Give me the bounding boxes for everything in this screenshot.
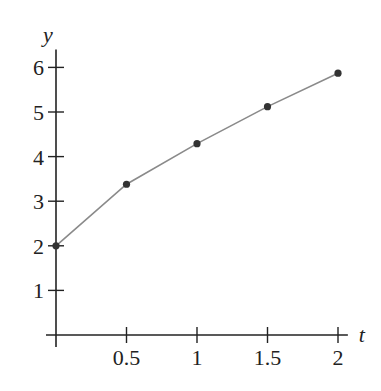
data-series [52, 70, 341, 250]
data-point-marker [193, 140, 200, 147]
data-point-marker [334, 70, 341, 77]
line-chart: 1234560.511.52yt [0, 0, 381, 391]
x-tick-label: 1 [192, 345, 203, 370]
data-point-marker [264, 103, 271, 110]
x-axis-title: t [359, 322, 366, 347]
data-point-marker [52, 242, 59, 249]
data-point-marker [123, 181, 130, 188]
y-tick-label: 4 [33, 145, 44, 170]
x-tick-label: 0.5 [113, 345, 141, 370]
x-tick-label: 1.5 [254, 345, 282, 370]
y-tick-label: 2 [33, 234, 44, 259]
axes: 1234560.511.52yt [33, 22, 366, 370]
y-tick-label: 3 [33, 189, 44, 214]
y-axis-title: y [41, 22, 53, 47]
y-tick-label: 5 [33, 100, 44, 125]
series-line [56, 73, 338, 246]
y-tick-label: 6 [33, 55, 44, 80]
y-tick-label: 1 [33, 278, 44, 303]
x-tick-label: 2 [333, 345, 344, 370]
